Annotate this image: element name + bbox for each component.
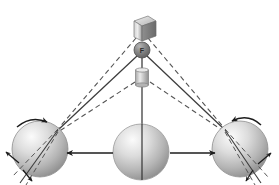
center-sphere-body — [113, 124, 169, 180]
middle-cylinder-bottom-cap — [136, 83, 149, 87]
cable-cube-to-right — [148, 38, 225, 129]
mechanics-diagram: F — [0, 0, 279, 185]
cable-apex-to-right — [147, 56, 225, 130]
middle-cylinder-top-cap — [136, 68, 149, 72]
left-sphere — [12, 121, 68, 185]
apex-sphere: F — [134, 42, 150, 58]
apex-sphere-label: F — [140, 47, 145, 54]
right-sphere — [212, 121, 268, 185]
cable-cylinder-to-right — [150, 82, 225, 132]
center-sphere — [113, 124, 169, 180]
top-cube — [134, 16, 156, 41]
right-sphere-body — [212, 121, 268, 177]
cable-cube-to-left — [58, 38, 136, 129]
cable-cylinder-to-left — [58, 82, 135, 132]
diagram-canvas: F — [0, 0, 279, 185]
middle-cylinder — [136, 68, 149, 87]
cable-apex-to-left — [58, 56, 137, 130]
